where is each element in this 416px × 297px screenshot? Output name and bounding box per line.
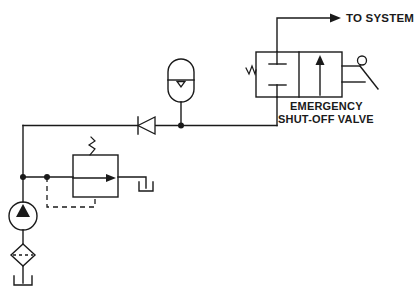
relief-valve-symbol <box>73 137 118 197</box>
valve-label-line2: SHUT-OFF VALVE <box>278 113 374 125</box>
valve-spring-actuator <box>246 66 256 74</box>
relief-valve-outlet-line <box>118 177 146 188</box>
schematic-canvas: TO SYSTEM <box>0 0 416 297</box>
emergency-shutoff-valve-symbol[interactable] <box>246 52 378 97</box>
to-system-arrow-icon <box>330 14 341 23</box>
relief-valve-spring-icon <box>89 137 95 155</box>
spring-zigzag-icon <box>246 66 256 74</box>
pump-symbol <box>9 177 37 244</box>
to-system-label: TO SYSTEM <box>346 12 414 24</box>
hydraulic-schematic-diagram: TO SYSTEM <box>0 0 416 297</box>
main-pressure-line-group <box>23 126 277 178</box>
valve-label-line1: EMERGENCY <box>290 100 363 112</box>
accumulator-symbol <box>168 59 194 126</box>
lever-handle-line <box>360 66 378 89</box>
valve-manual-lever-actuator[interactable] <box>342 56 378 89</box>
relief-valve-envelope <box>73 155 118 197</box>
check-valve-triangle-icon <box>138 117 155 134</box>
check-valve-symbol <box>138 117 155 134</box>
lever-knob-icon[interactable] <box>358 56 367 65</box>
to-system-line <box>277 18 330 52</box>
to-system-outlet-group <box>277 14 341 53</box>
